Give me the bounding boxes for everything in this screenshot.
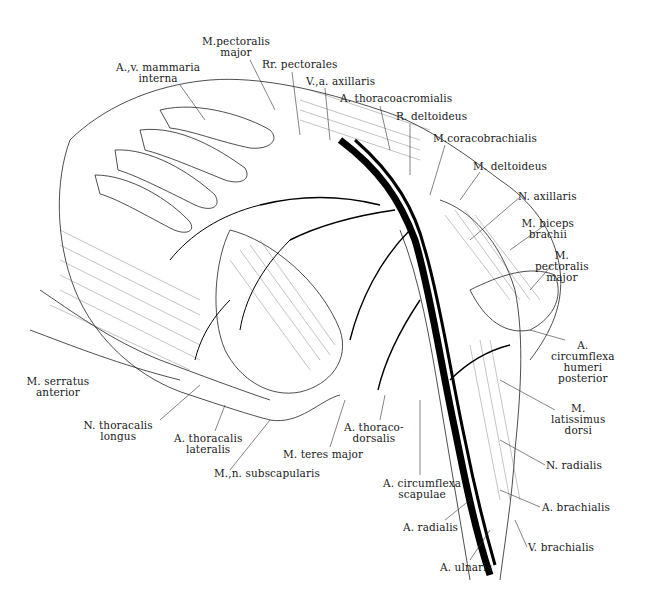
label-a-circumflexa-humeri-posterior: A.circumflexahumeriposterior xyxy=(551,340,615,384)
label-line: V. brachialis xyxy=(528,542,594,553)
label-n-radialis: N. radialis xyxy=(546,460,602,471)
label-v-brachialis: V. brachialis xyxy=(528,542,594,553)
label-va-axillaris: V.,a. axillaris xyxy=(306,76,375,87)
label-m-serratus-anterior: M. serratusanterior xyxy=(27,376,90,398)
label-m-n-subscapularis: M.,n. subscapularis xyxy=(214,468,320,479)
label-av-mammaria-interna: A.,v. mammariainterna xyxy=(116,62,200,84)
label-line: M.,n. subscapularis xyxy=(214,468,320,479)
label-m-pectoralis-major-right: M.pectoralismajor xyxy=(535,250,589,283)
label-a-ulnaris: A. ulnaris xyxy=(440,562,492,573)
label-m-biceps-brachii: M. bicepsbrachii xyxy=(522,218,575,240)
axillary-brachial-vessels xyxy=(170,140,510,575)
label-line: interna xyxy=(116,73,200,84)
label-line: A. brachialis xyxy=(542,502,610,513)
body-outline xyxy=(30,79,561,580)
label-line: posterior xyxy=(551,373,615,384)
label-line: N. radialis xyxy=(546,460,602,471)
label-line: brachii xyxy=(522,229,575,240)
label-m-teres-major: M. teres major xyxy=(283,449,363,460)
label-line: M. deltoideus xyxy=(473,161,547,172)
label-line: R. deltoideus xyxy=(396,111,467,122)
label-m-deltoideus: M. deltoideus xyxy=(473,161,547,172)
label-line: A. thoracoacromialis xyxy=(340,93,452,104)
label-line: V.,a. axillaris xyxy=(306,76,375,87)
label-line: A. radialis xyxy=(403,522,458,533)
label-line: longus xyxy=(84,431,153,442)
label-a-thoracodorsalis: A. thoraco-dorsalis xyxy=(344,422,404,444)
label-a-circumflexa-scapulae: A. circumflexascapulae xyxy=(383,478,461,500)
label-line: N. axillaris xyxy=(518,191,577,202)
label-a-brachialis: A. brachialis xyxy=(542,502,610,513)
label-a-radialis: A. radialis xyxy=(403,522,458,533)
label-n-axillaris: N. axillaris xyxy=(518,191,577,202)
label-line: Rr. pectorales xyxy=(262,59,337,70)
label-n-thoracalis-longus: N. thoracalislongus xyxy=(84,420,153,442)
label-rr-pectorales: Rr. pectorales xyxy=(262,59,337,70)
label-line: dorsalis xyxy=(344,433,404,444)
label-r-deltoideus: R. deltoideus xyxy=(396,111,467,122)
label-line: M.coracobrachialis xyxy=(433,133,537,144)
label-m-latissimus-dorsi: M.latissimusdorsi xyxy=(551,403,605,436)
label-line: lateralis xyxy=(174,444,242,455)
label-line: major xyxy=(535,272,589,283)
label-line: major xyxy=(202,47,270,58)
label-line: scapulae xyxy=(383,489,461,500)
label-m-pectoralis-major-top: M.pectoralismajor xyxy=(202,36,270,58)
label-a-thoracoacromialis: A. thoracoacromialis xyxy=(340,93,452,104)
label-a-thoracalis-lateralis: A. thoracalislateralis xyxy=(174,433,242,455)
label-line: anterior xyxy=(27,387,90,398)
label-m-coracobrachialis: M.coracobrachialis xyxy=(433,133,537,144)
label-line: A. ulnaris xyxy=(440,562,492,573)
label-line: M. teres major xyxy=(283,449,363,460)
label-line: dorsi xyxy=(551,425,605,436)
